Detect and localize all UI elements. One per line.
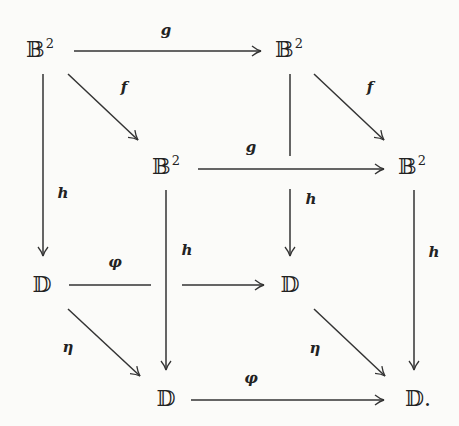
label-h-left: h bbox=[58, 186, 69, 201]
node-d-back-left: 𝔻 bbox=[32, 274, 51, 296]
arrow-eta-right bbox=[314, 309, 385, 376]
label-g-mid: g bbox=[246, 140, 257, 155]
label-f-right: f bbox=[367, 80, 373, 95]
node-superscript: 2 bbox=[295, 36, 303, 51]
node-d-front-left: 𝔻 bbox=[156, 388, 175, 410]
arrow-f-left bbox=[68, 74, 138, 140]
node-symbol: 𝔹 bbox=[398, 154, 417, 179]
node-b2-top-left: 𝔹2 bbox=[26, 37, 54, 61]
label-eta-right: η bbox=[310, 341, 321, 356]
node-superscript: 2 bbox=[418, 153, 426, 168]
label-h-right: h bbox=[429, 245, 440, 260]
label-h-mid: h bbox=[182, 243, 193, 258]
node-symbol: 𝔹 bbox=[275, 37, 294, 62]
node-symbol: 𝔻 bbox=[280, 272, 299, 297]
label-eta-left: η bbox=[63, 340, 74, 355]
node-superscript: 2 bbox=[46, 36, 54, 51]
arrow-eta-left bbox=[68, 309, 140, 376]
node-superscript: 2 bbox=[172, 153, 180, 168]
label-phi-bottom: φ bbox=[244, 371, 258, 386]
node-symbol: 𝔹 bbox=[152, 154, 171, 179]
label-f-left: f bbox=[121, 80, 127, 95]
label-phi-top: φ bbox=[108, 255, 122, 270]
diagram-arrows bbox=[0, 0, 459, 426]
label-h-inner: h bbox=[306, 192, 317, 207]
label-g-top: g bbox=[161, 23, 172, 38]
node-d-front-right: 𝔻. bbox=[405, 388, 431, 410]
node-symbol: 𝔻. bbox=[405, 386, 431, 411]
node-b2-front-left: 𝔹2 bbox=[152, 154, 180, 178]
arrow-f-right bbox=[314, 74, 384, 140]
node-symbol: 𝔻 bbox=[156, 386, 175, 411]
node-symbol: 𝔻 bbox=[32, 272, 51, 297]
node-d-back-right: 𝔻 bbox=[280, 274, 299, 296]
node-b2-front-right: 𝔹2 bbox=[398, 154, 426, 178]
node-symbol: 𝔹 bbox=[26, 37, 45, 62]
node-b2-top-right: 𝔹2 bbox=[275, 37, 303, 61]
